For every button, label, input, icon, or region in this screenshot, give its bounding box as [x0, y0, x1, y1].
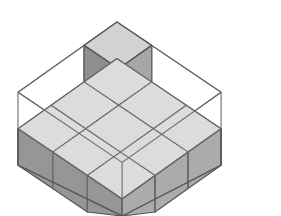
- isometric-cube-diagram: Isometric cube stack A 3 by 3 by 2 isome…: [0, 0, 281, 216]
- isometric-figure: Isometric cube stack A 3 by 3 by 2 isome…: [0, 0, 281, 216]
